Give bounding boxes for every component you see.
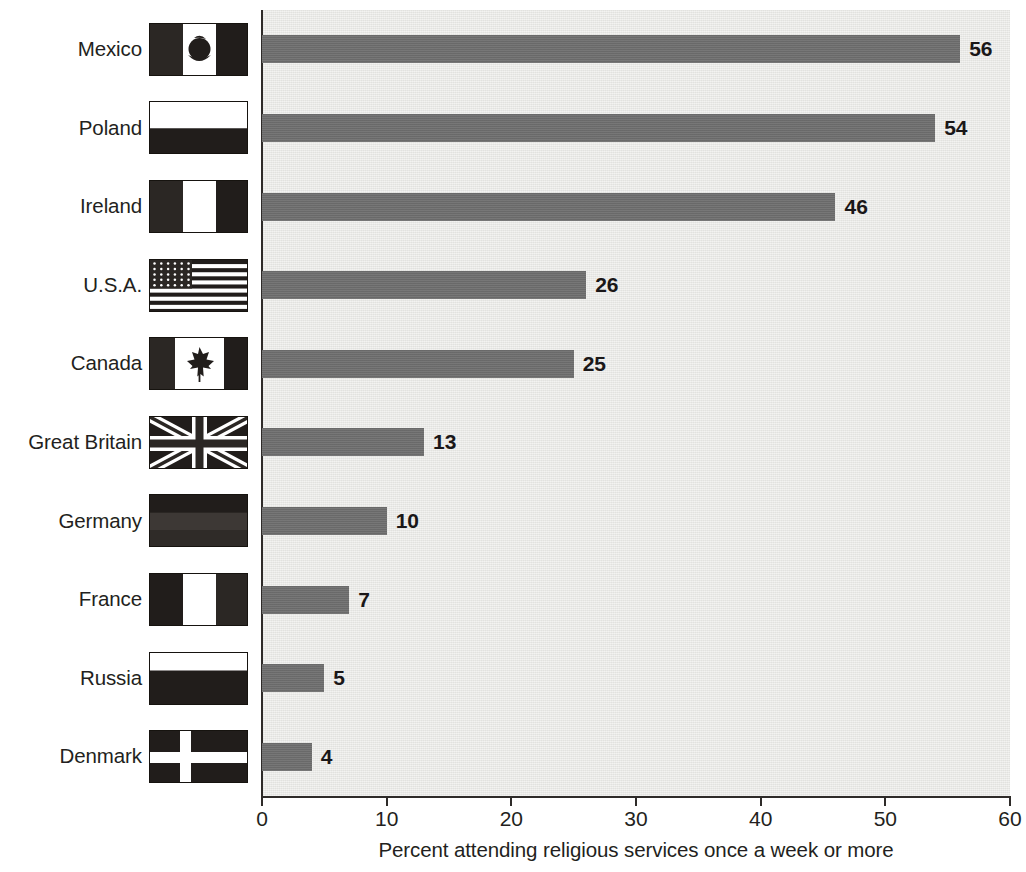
category-row-france: France [0,562,248,638]
x-axis-tick-label: 40 [749,807,772,831]
bar-value-label: 25 [583,350,606,378]
bar [262,428,424,456]
category-row-poland: Poland [0,90,248,166]
bar [262,193,835,221]
category-label: France [79,589,149,610]
category-label: Russia [80,668,149,689]
bar [262,743,312,771]
category-row-germany: Germany [0,483,248,559]
category-label: Denmark [60,746,149,767]
x-axis-tick-label: 50 [874,807,897,831]
category-row-mexico: Mexico [0,11,248,87]
bar [262,586,349,614]
bar-value-label: 4 [321,743,333,771]
bar-value-label: 10 [396,507,419,535]
x-axis-tick-label: 60 [998,807,1021,831]
category-label: Poland [79,118,149,139]
category-row-u-s-a: U.S.A. [0,247,248,323]
flag-france-icon [149,573,248,626]
x-axis-tick [386,796,388,806]
bar [262,507,387,535]
flag-mexico-icon [149,23,248,76]
bar-value-label: 5 [333,664,345,692]
x-axis-tick [884,796,886,806]
bar [262,350,574,378]
bar-chart: Mexico56Poland54Ireland46U.S.A.26Canada2… [0,0,1026,872]
flag-germany-icon [149,494,248,547]
bar [262,114,935,142]
category-row-great-britain: Great Britain [0,404,248,480]
bar [262,271,586,299]
bar-value-label: 26 [595,271,618,299]
flag-ireland-icon [149,180,248,233]
bar [262,35,960,63]
category-label: U.S.A. [83,275,149,296]
category-row-russia: Russia [0,640,248,716]
category-row-ireland: Ireland [0,169,248,245]
flag-great-britain-icon [149,416,248,469]
x-axis-tick-label: 0 [256,807,268,831]
bar-value-label: 56 [969,35,992,63]
category-row-denmark: Denmark [0,719,248,795]
bar [262,664,324,692]
x-axis-tick-label: 20 [500,807,523,831]
flag-denmark-icon [149,730,248,783]
x-axis-tick [1009,796,1011,806]
category-label: Mexico [78,39,149,60]
x-axis-title: Percent attending religious services onc… [262,838,1010,862]
category-row-canada: Canada [0,326,248,402]
x-axis-tick [510,796,512,806]
flag-russia-icon [149,652,248,705]
flag-poland-icon [149,101,248,154]
category-label: Ireland [80,196,149,217]
x-axis-tick-label: 30 [624,807,647,831]
x-axis-tick [635,796,637,806]
x-axis-tick-label: 10 [375,807,398,831]
category-label: Great Britain [28,432,149,453]
bar-value-label: 7 [358,586,370,614]
x-axis-tick [261,796,263,806]
bar-value-label: 13 [433,428,456,456]
bar-value-label: 46 [844,193,867,221]
x-axis-tick [760,796,762,806]
flag-usa-icon [149,259,248,312]
flag-canada-icon [149,337,248,390]
category-label: Canada [71,353,149,374]
category-label: Germany [58,511,149,532]
bar-value-label: 54 [944,114,967,142]
